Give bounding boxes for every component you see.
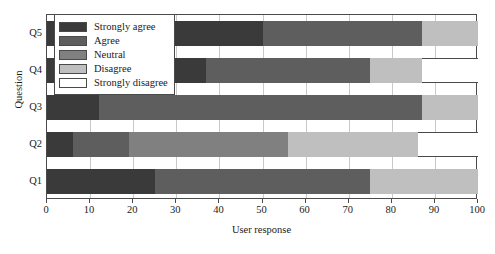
bar-q1 [47, 169, 478, 194]
x-tick-label-20: 20 [112, 204, 152, 215]
legend-swatch-icon [59, 22, 87, 32]
x-tick-label-30: 30 [155, 204, 195, 215]
x-tick-mark-80 [391, 199, 392, 203]
y-axis-title: Question [13, 50, 24, 130]
x-tick-label-80: 80 [371, 204, 411, 215]
x-tick-mark-20 [132, 199, 133, 203]
bar-segment [370, 58, 422, 83]
x-tick-mark-60 [305, 199, 306, 203]
bar-q2 [47, 132, 478, 157]
bar-segment [155, 169, 371, 194]
legend-swatch-icon [59, 36, 87, 46]
legend-label: Agree [94, 35, 120, 46]
x-tick-label-0: 0 [26, 204, 66, 215]
y-tick-q1: Q1 [0, 175, 42, 187]
x-tick-mark-50 [262, 199, 263, 203]
legend-label: Strongly disagree [94, 77, 168, 88]
bar-segment [422, 95, 478, 120]
bar-segment [99, 95, 422, 120]
bar-segment [422, 58, 478, 83]
x-tick-label-90: 90 [414, 204, 454, 215]
bar-segment [418, 132, 478, 157]
y-tick-q2: Q2 [0, 138, 42, 150]
legend-item[interactable]: Neutral [59, 48, 168, 61]
x-tick-mark-0 [46, 199, 47, 203]
legend-label: Disagree [94, 63, 131, 74]
legend-item[interactable]: Strongly disagree [59, 76, 168, 89]
x-tick-label-100: 100 [457, 204, 495, 215]
legend-item[interactable]: Strongly agree [59, 20, 168, 33]
bar-q3 [47, 95, 478, 120]
legend-item[interactable]: Agree [59, 34, 168, 47]
bar-segment [47, 169, 155, 194]
x-tick-mark-100 [477, 199, 478, 203]
bar-segment [288, 132, 417, 157]
x-tick-label-70: 70 [328, 204, 368, 215]
x-tick-mark-30 [175, 199, 176, 203]
x-tick-mark-10 [89, 199, 90, 203]
bar-segment [129, 132, 288, 157]
legend-swatch-icon [59, 50, 87, 60]
x-tick-label-50: 50 [242, 204, 282, 215]
bar-segment [47, 132, 73, 157]
x-tick-mark-70 [348, 199, 349, 203]
stacked-bar-chart: Q5Q4Q3Q2Q1 Question 01020304050607080901… [0, 0, 495, 254]
bar-segment [206, 58, 370, 83]
x-tick-mark-40 [218, 199, 219, 203]
x-tick-mark-90 [434, 199, 435, 203]
bar-segment [263, 21, 422, 46]
bar-segment [422, 21, 478, 46]
bar-segment [47, 95, 99, 120]
x-tick-label-10: 10 [69, 204, 109, 215]
x-axis-title: User response [46, 224, 477, 235]
bar-segment [370, 169, 478, 194]
x-tick-label-60: 60 [285, 204, 325, 215]
bar-segment [73, 132, 129, 157]
legend: Strongly agreeAgreeNeutralDisagreeStrong… [54, 14, 175, 95]
legend-label: Neutral [94, 49, 126, 60]
legend-label: Strongly agree [94, 21, 156, 32]
legend-swatch-icon [59, 64, 87, 74]
legend-item[interactable]: Disagree [59, 62, 168, 75]
legend-swatch-icon [59, 78, 87, 88]
x-tick-label-40: 40 [198, 204, 238, 215]
y-tick-q5: Q5 [0, 27, 42, 39]
